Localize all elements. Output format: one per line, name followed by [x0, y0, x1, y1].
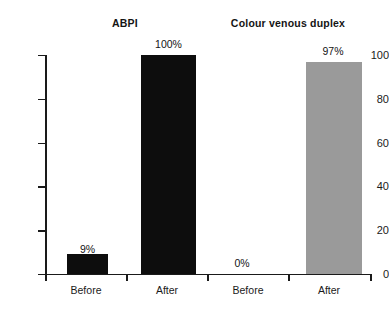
y-tick-label-100: 100	[355, 49, 389, 61]
bar-after-abpi	[141, 55, 196, 274]
y-tick-40	[38, 186, 45, 188]
y-tick-20	[38, 230, 45, 232]
x-tick-3	[288, 274, 290, 281]
x-axis-label-before-abpi: Before	[71, 284, 102, 296]
group-title-colour-venous-duplex: Colour venous duplex	[231, 17, 345, 29]
y-tick-60	[38, 143, 45, 145]
bar-after-duplex	[306, 62, 362, 274]
bar-value-label-before-abpi: 9%	[80, 243, 95, 255]
group-title-abpi: ABPI	[112, 17, 138, 29]
y-tick-80	[38, 99, 45, 101]
x-axis-label-before-duplex: Before	[233, 284, 264, 296]
bar-value-label-after-duplex: 97%	[322, 45, 343, 57]
y-axis-line	[45, 55, 47, 275]
bar-before-abpi	[67, 254, 108, 274]
bar-value-label-after-abpi: 100%	[155, 38, 182, 50]
x-tick-1	[126, 274, 128, 281]
y-tick-100	[38, 55, 45, 57]
x-tick-0	[45, 274, 47, 281]
x-axis-label-after-abpi: After	[156, 284, 178, 296]
x-tick-2	[207, 274, 209, 281]
bar-chart: ABPI Colour venous duplex 100 80 60 40 2…	[0, 0, 389, 313]
x-tick-4	[370, 274, 372, 281]
y-tick-0	[38, 274, 45, 276]
x-axis-label-after-duplex: After	[318, 284, 340, 296]
bar-value-label-before-duplex: 0%	[234, 257, 249, 269]
